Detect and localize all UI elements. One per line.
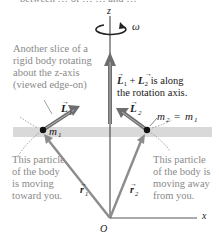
svg-text:Another slice of a: Another slice of a xyxy=(13,43,88,54)
svg-text:m: m xyxy=(185,110,193,122)
caption-slice: Another slice of a rigid body rotating a… xyxy=(13,43,92,91)
origin-label: O xyxy=(100,223,107,234)
r2-label: → r 2 xyxy=(130,180,139,197)
svg-text:L: L xyxy=(60,102,68,114)
particle-m1 xyxy=(40,127,46,133)
caption-toward-you: This particle of the body is moving towa… xyxy=(12,154,65,201)
svg-text:This particle: This particle xyxy=(153,154,206,165)
svg-text:1: 1 xyxy=(194,116,198,124)
svg-text:(viewed edge-on): (viewed edge-on) xyxy=(13,79,87,91)
motion-curve-left-upper xyxy=(20,117,38,128)
svg-text:rigid body rotating: rigid body rotating xyxy=(13,55,92,66)
svg-text:the rotation axis.: the rotation axis. xyxy=(117,87,187,98)
svg-text:=: = xyxy=(174,110,180,122)
svg-text:1: 1 xyxy=(58,131,62,139)
slice-caption-leader xyxy=(44,100,52,114)
svg-text:m: m xyxy=(157,110,165,122)
top-cutoff-text: between … of … … and … xyxy=(20,0,137,4)
svg-text:of the body is: of the body is xyxy=(153,166,210,177)
svg-text:1: 1 xyxy=(69,109,73,117)
L2-label: → L 2 xyxy=(129,98,142,117)
svg-text:2: 2 xyxy=(135,190,139,197)
svg-text:2: 2 xyxy=(138,109,142,117)
z-axis-label: z xyxy=(106,5,111,16)
svg-text:is moving: is moving xyxy=(12,178,54,189)
particle-m2 xyxy=(144,127,150,133)
svg-text:about the z-axis: about the z-axis xyxy=(13,67,79,78)
svg-text:r: r xyxy=(80,184,84,195)
svg-text:→: → xyxy=(117,70,124,78)
svg-text:r: r xyxy=(130,184,134,195)
angular-momentum-diagram: between … of … … and … z ω x O Another s… xyxy=(0,0,219,240)
x-axis-label: x xyxy=(201,210,207,221)
svg-text:L: L xyxy=(129,102,137,114)
caption-away-from-you: This particle of the body is moving away… xyxy=(153,154,211,201)
svg-text:from you.: from you. xyxy=(153,190,194,201)
svg-text:2: 2 xyxy=(166,116,170,124)
svg-text:→: → xyxy=(145,70,152,78)
caption-sum: L1 + L2 is along the rotation axis. → → xyxy=(116,70,187,98)
svg-text:of the body: of the body xyxy=(12,166,61,177)
m2-equals-m1-label: m 2 = m 1 xyxy=(150,110,198,126)
svg-text:m: m xyxy=(49,125,57,137)
omega-label: ω xyxy=(132,20,140,32)
svg-text:This particle: This particle xyxy=(12,154,65,165)
svg-text:toward you.: toward you. xyxy=(12,190,62,201)
svg-text:moving away: moving away xyxy=(153,178,211,189)
svg-text:1: 1 xyxy=(85,190,88,197)
rotation-arrow-icon xyxy=(96,22,126,34)
